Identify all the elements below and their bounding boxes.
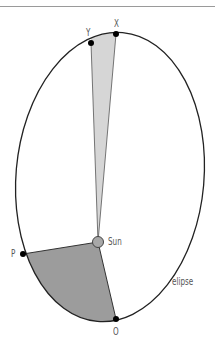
sun-icon [93, 237, 104, 248]
label-o: O [113, 327, 119, 337]
point-p-marker [20, 251, 26, 257]
label-p: P [11, 249, 15, 259]
orbit-diagram [0, 0, 215, 355]
point-o-marker [113, 316, 119, 322]
light-sector-area [91, 20, 116, 242]
label-y: Y [86, 28, 90, 38]
dark-sector-area [0, 242, 116, 355]
point-y-marker [88, 40, 94, 46]
label-ellipse: elipse [172, 277, 193, 287]
label-sun: Sun [108, 237, 122, 247]
point-x-marker [113, 31, 119, 37]
label-x: X [114, 19, 119, 29]
